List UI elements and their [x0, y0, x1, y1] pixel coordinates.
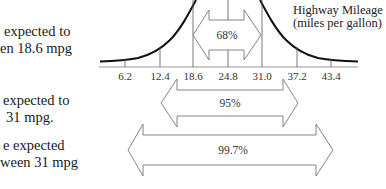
- normal-curve-diagram: 6.2 12.4 18.6 24.8 31.0 37.2 43.4 68% 95…: [0, 0, 386, 189]
- tick-label: 37.2: [287, 70, 306, 82]
- label-99-7-percent: 99.7%: [218, 144, 248, 156]
- tick-label: 12.4: [150, 70, 170, 82]
- label-95-percent: 95%: [219, 97, 241, 109]
- tick-label: 18.6: [183, 70, 203, 82]
- tick-label: 6.2: [118, 70, 132, 82]
- tick-label: 24.8: [218, 70, 238, 82]
- label-68-percent: 68%: [216, 29, 238, 41]
- tick-label: 43.4: [321, 70, 341, 82]
- tick-label: 31.0: [252, 70, 272, 82]
